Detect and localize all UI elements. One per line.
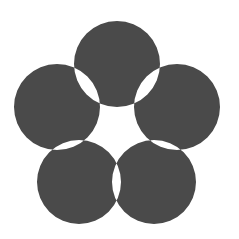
five-circle-flower-diagram: [0, 0, 239, 239]
